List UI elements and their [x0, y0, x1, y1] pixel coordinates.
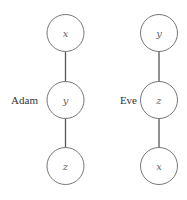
column-adam: x y z Adam [11, 15, 84, 185]
node-label: y [155, 28, 162, 39]
node-label: x [63, 28, 69, 39]
node-adam-middle: y [47, 82, 84, 119]
ordering-diagram: x y z Adam y z x Eve [0, 0, 187, 200]
node-adam-top: x [47, 15, 84, 52]
node-label: y [62, 95, 69, 106]
node-label: x [156, 161, 162, 172]
node-eve-bottom: x [141, 148, 178, 185]
node-eve-top: y [141, 15, 178, 52]
column-label-eve: Eve [120, 94, 137, 106]
column-label-adam: Adam [11, 94, 38, 106]
column-eve: y z x Eve [120, 15, 178, 185]
node-label: z [155, 95, 162, 106]
node-eve-middle: z [141, 82, 178, 119]
node-adam-bottom: z [47, 148, 84, 185]
node-label: z [62, 161, 69, 172]
